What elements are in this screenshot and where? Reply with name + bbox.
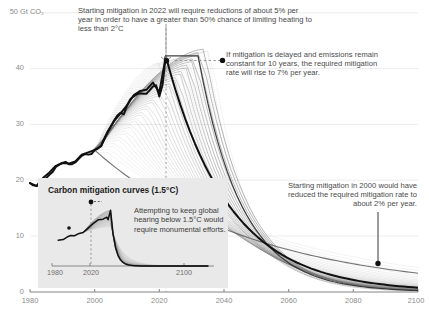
- inset-history-marker: [67, 226, 71, 230]
- year-2100-2percent-marker: [375, 261, 380, 266]
- x-axis-line: [30, 289, 418, 292]
- inset-panel: Carbon mitigation curves (1.5°C) Attempt…: [38, 178, 228, 288]
- y-tick-0: 0: [0, 287, 24, 296]
- inset-title: Carbon mitigation curves (1.5°C): [48, 185, 178, 195]
- inset-note: Attempting to keep global hearing below …: [134, 206, 226, 234]
- x-tick-2020: 2020: [142, 296, 176, 305]
- inset-x-tick-2100: 2100: [169, 268, 199, 277]
- y-tick-10: 10: [0, 231, 24, 240]
- annotation-start-2000: Starting mitigation in 2000 would have r…: [283, 181, 417, 209]
- y-tick-50: 50 Gt CO₂: [0, 7, 44, 16]
- peak-2022-marker: [164, 58, 169, 63]
- inset-peak-marker: [89, 200, 94, 205]
- annotation-start-2022: Starting mitigation in 2022 will require…: [78, 6, 313, 34]
- delayed-constant-marker: [220, 58, 225, 63]
- x-tick-2100: 2100: [399, 296, 429, 305]
- y-tick-30: 30: [0, 119, 24, 128]
- inset-x-tick-2020: 2020: [76, 268, 106, 277]
- x-tick-1980: 1980: [13, 296, 47, 305]
- x-tick-2040: 2040: [207, 296, 241, 305]
- x-tick-2060: 2060: [272, 296, 306, 305]
- y-tick-20: 20: [0, 175, 24, 184]
- x-tick-2080: 2080: [336, 296, 370, 305]
- annotation-delayed-mitigation: If mitigation is delayed and emissions r…: [226, 50, 386, 78]
- y-tick-40: 40: [0, 63, 24, 72]
- x-tick-2000: 2000: [78, 296, 112, 305]
- inset-x-tick-1980: 1980: [40, 268, 70, 277]
